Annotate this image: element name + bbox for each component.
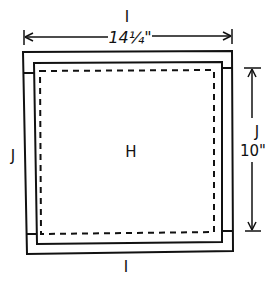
center-block-label: H	[125, 143, 136, 161]
bottom-border-label: I	[124, 258, 128, 276]
height-dimension-label: 10"	[240, 142, 266, 160]
quilt-diagram: I 14¼" H J J 10" I	[0, 0, 272, 281]
top-border-label: I	[125, 8, 129, 26]
right-border-label: J	[254, 123, 259, 141]
width-dimension-label: 14¼"	[108, 28, 151, 47]
left-border-label: J	[10, 147, 15, 165]
